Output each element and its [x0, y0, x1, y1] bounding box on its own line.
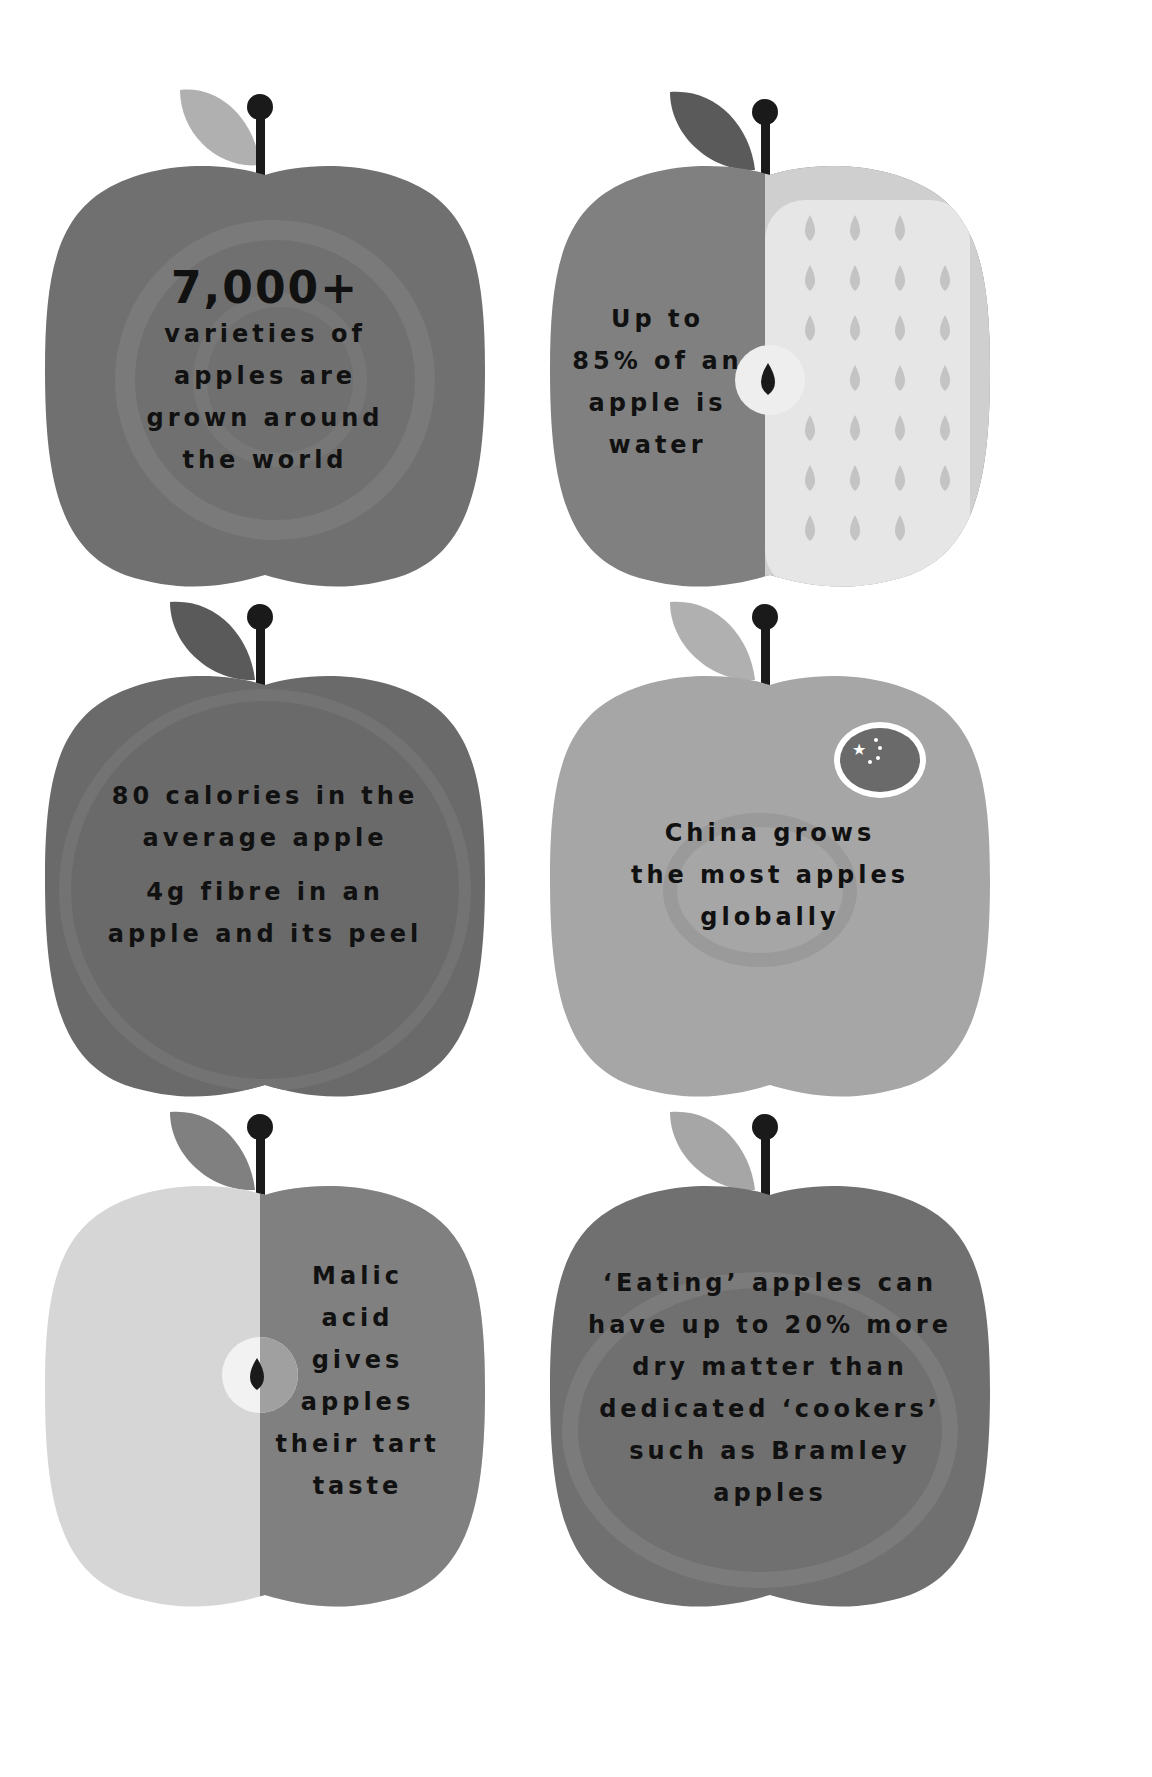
fact-line: such as Bramley — [550, 1430, 990, 1472]
fact-line: acid — [265, 1297, 450, 1339]
fact-line: water — [540, 424, 775, 466]
leaf-icon — [670, 1112, 755, 1190]
fact-line: the most apples — [550, 854, 990, 896]
fact-line: 4g fibre in an — [45, 871, 485, 913]
fact-line: gives — [265, 1339, 450, 1381]
fact-line: apple and its peel — [45, 913, 485, 955]
fact-line: average apple — [45, 817, 485, 859]
stem-icon — [761, 1130, 770, 1200]
fact-line: dedicated ‘cookers’ — [550, 1388, 990, 1430]
apple-fact-text: 7,000+ varieties of apples are grown aro… — [45, 263, 485, 481]
stem-icon — [256, 620, 265, 690]
leaf-icon — [670, 602, 755, 680]
fact-line: Up to — [540, 298, 775, 340]
fact-line: Malic — [265, 1255, 450, 1297]
stem-icon — [256, 1130, 265, 1198]
leaf-icon — [670, 92, 755, 170]
apple-card-water: Up to 85% of an apple is water — [550, 80, 990, 600]
apple-card-malic-acid: Malic acid gives apples their tart taste — [45, 1100, 485, 1620]
leaf-icon — [180, 90, 260, 166]
leaf-icon — [170, 1112, 255, 1190]
fact-headline: 7,000+ — [45, 263, 485, 313]
fact-line: dry matter than — [550, 1346, 990, 1388]
apple-fact-text: 80 calories in the average apple 4g fibr… — [45, 775, 485, 955]
fact-line: 85% of an — [540, 340, 775, 382]
fact-line: their tart — [265, 1423, 450, 1465]
apple-fact-text: Up to 85% of an apple is water — [540, 298, 775, 466]
fact-line: globally — [550, 896, 990, 938]
fact-line: taste — [265, 1465, 450, 1507]
fact-line: have up to 20% more — [550, 1304, 990, 1346]
fact-line: apples — [265, 1381, 450, 1423]
fact-line: ‘Eating’ apples can — [550, 1262, 990, 1304]
china-flag-icon: ★ — [834, 722, 926, 798]
apple-card-dry-matter: ‘Eating’ apples can have up to 20% more … — [550, 1100, 990, 1620]
fact-line: the world — [45, 439, 485, 481]
fact-line: apples are — [45, 355, 485, 397]
apple-fact-text: Malic acid gives apples their tart taste — [265, 1255, 450, 1507]
apple-fact-text: ‘Eating’ apples can have up to 20% more … — [550, 1262, 990, 1514]
apple-card-calories: 80 calories in the average apple 4g fibr… — [45, 590, 485, 1110]
apple-card-china: ★ China grows the most apples globally — [550, 590, 990, 1110]
leaf-icon — [170, 602, 255, 680]
svg-text:★: ★ — [852, 740, 866, 759]
apple-card-varieties: 7,000+ varieties of apples are grown aro… — [45, 80, 485, 600]
fact-line: 80 calories in the — [45, 775, 485, 817]
fact-line: varieties of — [45, 313, 485, 355]
stem-icon — [761, 620, 770, 690]
fact-line: China grows — [550, 812, 990, 854]
apple-fact-text: China grows the most apples globally — [550, 812, 990, 938]
fact-line: apple is — [540, 382, 775, 424]
fact-line: grown around — [45, 397, 485, 439]
fact-line: apples — [550, 1472, 990, 1514]
